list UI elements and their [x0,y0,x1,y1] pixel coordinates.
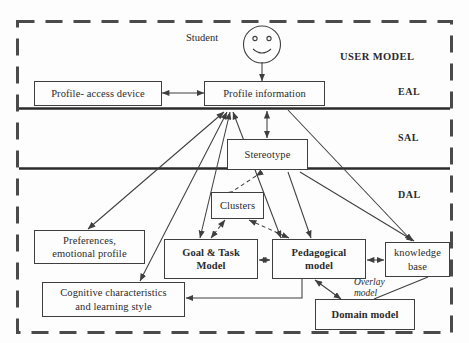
edge-profile-information-to-goal-task-model [200,112,230,238]
student-label: Student [186,32,218,43]
edge-profile-information-to-preferences [88,112,224,229]
edge-profile-information-to-pedagogical-model [233,112,281,238]
node-stereotype[interactable]: Stereotype [227,139,308,170]
edge-pedagogical-model-to-domain-model [315,280,341,299]
layer-label-dal: DAL [398,189,421,200]
edge-clusters-to-pedagogical-model [249,220,289,238]
node-profile-information[interactable]: Profile information [204,81,325,106]
edge-stereotype-to-clusters [233,176,256,191]
node-cognitive-characteristics[interactable]: Cognitive characteristics and learning s… [42,282,185,317]
layer-label-sal: SAL [398,132,419,143]
edge-clusters-to-goal-task-model [211,220,225,238]
node-preferences[interactable]: Preferences, emotional profile [34,230,145,264]
user-model-title: USER MODEL [340,51,414,62]
node-goal-task-model[interactable]: Goal & Task Model [164,239,258,279]
node-clusters[interactable]: Clusters [211,192,264,219]
node-profile-access-device[interactable]: Profile- access device [34,81,162,106]
edge-pedagogical-model-to-cognitive [186,279,302,298]
edge-stereotype-to-pedagogical-model [288,172,311,238]
node-pedagogical-model[interactable]: Pedagogical model [272,239,366,279]
node-knowledge-base[interactable]: knowledge base [385,242,450,277]
node-domain-model[interactable]: Domain model [315,299,415,330]
overlay-model-annotation: Overlay model [354,277,385,299]
layer-label-eal: EAL [398,86,420,97]
smiley-face-icon [244,26,281,63]
diagram-canvas: USER MODEL EAL SAL DAL Student Profile- … [0,0,469,343]
